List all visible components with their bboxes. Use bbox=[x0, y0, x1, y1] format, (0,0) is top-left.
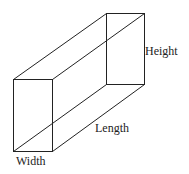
bottom-right-depth-edge bbox=[53, 85, 145, 152]
height-label: Height bbox=[145, 44, 178, 58]
top-left-depth-edge bbox=[14, 14, 107, 80]
back-face bbox=[107, 14, 145, 85]
width-label: Width bbox=[16, 154, 46, 168]
front-face bbox=[14, 80, 53, 152]
length-label: Length bbox=[95, 121, 129, 135]
box-diagram: Height Length Width bbox=[0, 0, 189, 174]
bottom-left-depth-edge bbox=[14, 85, 107, 152]
top-right-depth-edge bbox=[53, 14, 145, 80]
